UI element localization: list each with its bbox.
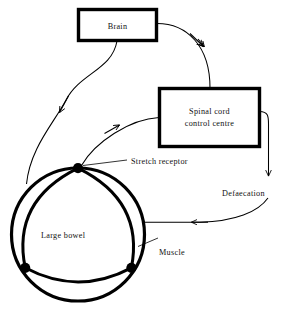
arrow-brain-to-spinal-cord (157, 24, 210, 89)
brain-box-label: Brain (108, 22, 128, 31)
defaecation-reflex-diagram: Large bowel Brain Spinal cord control ce… (0, 0, 283, 311)
arrowhead-brain-to-bowel (60, 96, 69, 113)
muscle-arc-right (78, 168, 134, 268)
spinal-cord-box (160, 89, 260, 147)
muscle-arc-left (23, 168, 78, 268)
stretch-receptor-node-bottom-left (20, 263, 30, 273)
muscle-label: Muscle (159, 248, 185, 257)
diagram-canvas: Large bowel Brain Spinal cord control ce… (0, 0, 283, 311)
large-bowel-label: Large bowel (41, 231, 86, 240)
spinal-cord-box-label-line2: control centre (185, 119, 235, 128)
spinal-cord-box-label-line1: Spinal cord (189, 107, 230, 116)
arrowhead-brain-to-spinal-cord (190, 34, 204, 47)
defaecation-label: Defaecation (222, 189, 265, 198)
leader-line-stretch-receptor (83, 160, 127, 166)
stretch-receptor-label: Stretch receptor (131, 157, 188, 166)
large-bowel-group: Large bowel (12, 163, 145, 301)
muscle-arc-bottom (25, 268, 131, 282)
path-defaecation-to-bowel (145, 198, 269, 222)
leader-line-muscle (138, 238, 158, 247)
spinal-cord-box-group: Spinal cord control centre (160, 89, 260, 147)
stretch-receptor-node-bottom-right (126, 263, 136, 273)
arrowhead-receptor-to-spinal-cord (105, 125, 120, 134)
brain-box-group: Brain (79, 10, 157, 41)
